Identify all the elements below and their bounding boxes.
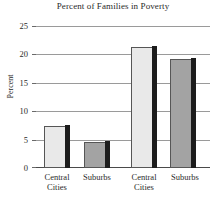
bar-shadow-top [152,46,157,50]
bar-suburbs-2 [170,59,196,168]
bar-shadow-top [65,125,70,129]
bar-shadow-top [105,141,110,145]
gridline-20 [36,54,210,55]
y-tick-label: 10 [6,107,28,116]
bar-central-cities-1 [44,126,70,168]
bar-central-cities-2 [131,47,157,168]
y-tick-label: 0 [6,164,28,173]
y-tick-label: 25 [6,22,28,31]
bar-shadow-side [191,62,196,168]
x-tick-label-line1: Suburbs [162,172,208,182]
y-tick-label: 5 [6,136,28,145]
chart-title: Percent of Families in Poverty [28,1,198,11]
bar-shadow-side [65,129,70,168]
x-tick-label-3: Suburbs [162,172,208,182]
x-tick-label-1: Suburbs [74,172,120,182]
gridline-25 [36,26,210,27]
y-tick-label: 20 [6,50,28,59]
x-axis-tick-labels: Central Cities Suburbs Central Cities Su… [36,170,210,200]
bar-shadow-top [191,58,196,62]
y-axis-tick-labels: 25 20 15 10 5 0 [0,26,34,168]
bar-shadow-side [105,145,110,168]
x-tick-label-line1: Suburbs [74,172,120,182]
bar-shadow-side [152,50,157,168]
x-tick-label-line2: Cities [119,182,169,192]
bar-suburbs-1 [84,142,110,168]
plot-area [36,26,210,168]
y-tick-label: 15 [6,79,28,88]
chart-container: Percent of Families in Poverty Percent 2… [0,0,213,201]
x-tick-label-line2: Cities [32,182,82,192]
